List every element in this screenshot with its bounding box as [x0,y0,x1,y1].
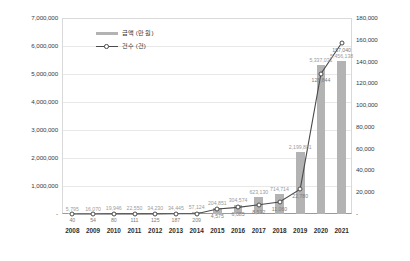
y-left-tick-label: 4,000,000 [31,99,58,105]
y-axis-right: -20,00040,00060,00080,000100,000120,0001… [356,0,410,261]
y-right-tick-label: 140,000 [356,58,378,64]
count-value-label: 80 [111,218,117,223]
x-axis-tick-label: 2021 [335,228,349,234]
y-right-tick-label: 120,000 [356,80,378,86]
count-value-label: 40 [69,218,75,223]
count-value-label: 209 [192,218,201,223]
x-axis-tick-label: 2015 [210,228,224,234]
bar-value-label: 623,130 [249,190,268,195]
x-axis-tick-label: 2013 [169,228,183,234]
bar-value-label: 5,795 [66,207,79,212]
y-right-tick-label: 100,000 [356,102,378,108]
x-axis-tick-label: 2020 [314,228,328,234]
y-right-tick-label: 20,000 [356,189,374,195]
bar-value-label: 22,550 [127,206,143,211]
y-left-tick-label: - [56,211,58,217]
bar-value-label: 714,714 [270,187,289,192]
bar-value-label: 34,230 [147,206,163,211]
y-left-tick-label: 5,000,000 [31,71,58,77]
legend-label-amount: 금액 (만 원) [122,30,154,36]
x-axis-tick-label: 2014 [190,228,204,234]
count-value-label: 111 [131,218,139,223]
legend-label-count: 건수 (건) [122,43,146,49]
bar-value-label: 16,070 [85,207,101,212]
count-value-label: 125 [151,218,160,223]
bar-value-label: 204,851 [208,201,227,206]
x-axis-tick-label: 2018 [272,228,286,234]
y-left-tick-label: 1,000,000 [31,183,58,189]
x-axis-tick-label: 2012 [148,228,162,234]
x-axis-tick-label: 2017 [252,228,266,234]
y-axis-left: -1,000,0002,000,0003,000,0004,000,0005,0… [0,0,58,261]
y-left-tick-label: 7,000,000 [31,15,58,21]
y-left-tick-label: 2,000,000 [31,155,58,161]
x-axis-tick-label: 2011 [128,228,142,234]
y-left-tick-label: 3,000,000 [31,127,58,133]
bar-value-label: 2,199,881 [289,145,312,150]
y-right-tick-label: 80,000 [356,124,374,130]
bar-value-label: 5,456,138 [330,54,353,59]
legend-bar-swatch-icon [96,32,118,35]
x-axis-tick-label: 2019 [293,228,307,234]
bar-value-label: 34,445 [168,206,184,211]
y-left-tick-label: 6,000,000 [31,43,58,49]
bar-value-label: 304,574 [229,198,248,203]
bar-value-label: 5,337,031 [309,58,332,63]
x-axis-tick-label: 2009 [86,228,100,234]
x-axis-tick-label: 2010 [107,228,121,234]
chart-container: -1,000,0002,000,0003,000,0004,000,0005,0… [0,0,410,261]
chart-legend: 금액 (만 원) 건수 (건) [96,27,154,53]
x-axis-year-labels: 2008200920102011201220132014201520162017… [62,228,352,242]
x-axis-tick-label: 2008 [65,228,79,234]
count-value-label: 187 [172,218,181,223]
y-right-tick-label: 160,000 [356,37,378,43]
x-axis-tick-label: 2016 [231,228,245,234]
y-right-tick-label: 180,000 [356,15,378,21]
y-right-tick-label: 40,000 [356,167,374,173]
bar-value-label: 57,124 [189,205,205,210]
count-value-label: 4,575 [211,214,224,219]
y-right-tick-label: 60,000 [356,146,374,152]
bar-value-label: 19,946 [106,206,122,211]
y-right-tick-label: - [356,211,358,217]
legend-item-amount: 금액 (만 원) [96,27,154,40]
legend-line-marker-icon [96,44,118,50]
legend-item-count: 건수 (건) [96,40,154,53]
count-value-label: 54 [90,218,96,223]
